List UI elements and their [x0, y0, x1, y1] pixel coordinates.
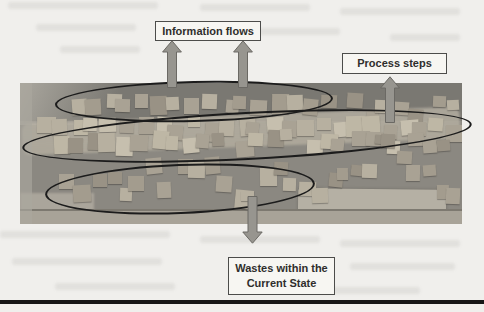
arrow-up-icon — [162, 40, 182, 88]
arrow-up-icon — [380, 76, 400, 123]
label-wastes-line1: Wastes within the — [235, 261, 328, 276]
sticky-note — [446, 100, 459, 111]
sticky-note — [396, 151, 412, 165]
sticky-note — [362, 164, 377, 179]
sticky-note — [422, 140, 436, 154]
sticky-note — [311, 187, 327, 202]
label-process-steps-text: Process steps — [357, 56, 432, 71]
footer-rule — [0, 300, 484, 304]
sticky-note — [347, 92, 363, 108]
label-information-flows-text: Information flows — [162, 24, 254, 39]
document-page: Information flows Process steps Wastes w… — [0, 0, 484, 312]
sticky-note — [337, 168, 349, 180]
sticky-note — [436, 140, 450, 152]
arrow-up-icon — [233, 40, 253, 88]
label-wastes-line2: Current State — [247, 276, 317, 291]
arrow-down-icon — [242, 196, 263, 244]
sticky-note — [406, 165, 420, 181]
label-wastes-current-state: Wastes within the Current State — [228, 257, 335, 295]
label-information-flows: Information flows — [155, 21, 261, 41]
sticky-note — [433, 95, 447, 107]
sticky-note — [423, 165, 437, 177]
label-process-steps: Process steps — [342, 53, 447, 74]
sticky-note — [445, 188, 460, 204]
